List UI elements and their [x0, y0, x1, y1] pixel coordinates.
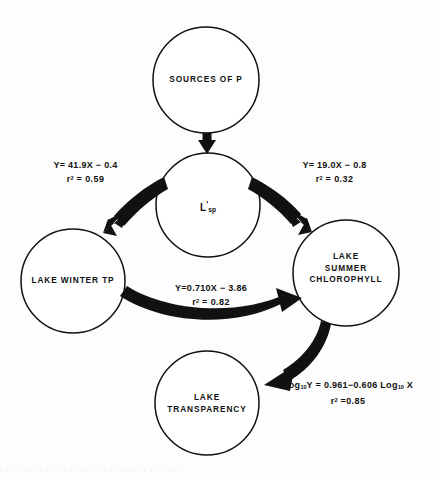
log-prefix-1: Log: [283, 380, 300, 390]
figure-canvas: .circ { fill: #ffffff; stroke: #111111; …: [0, 0, 439, 479]
edge-r2-value-chloro-transparency: =0.85: [338, 396, 366, 406]
edge-r2-value-lsp-winter: = 0.59: [74, 174, 105, 184]
caption-remnant: ................................: [0, 461, 439, 479]
edge-label-lsp-to-lake-summer-chlorophyll: Y= 19.0X − 0.8r2 = 0.32: [268, 159, 401, 186]
node-circle-lake-transparency[interactable]: [155, 351, 259, 455]
edge-r2-value-lsp-chloro: = 0.32: [323, 174, 354, 184]
log-middle: Y = 0.961−0.606 Log: [307, 380, 398, 390]
node-circle-lake-winter-tp[interactable]: [21, 229, 125, 333]
edge-label-lake-summer-chlorophyll-to-lake-transparency: Log10Y = 0.961−0.606 Log10 Xr2 =0.85: [260, 379, 436, 408]
node-circle-lsp[interactable]: [156, 153, 260, 257]
edge-equation-lsp-winter: Y= 41.9X − 0.4: [53, 160, 117, 170]
node-circle-lake-summer-chlorophyll[interactable]: [293, 220, 399, 326]
edge-r2-value-winter-chloro: = 0.82: [199, 297, 230, 307]
arrow-sources-to-lsp: [198, 133, 216, 154]
edge-label-lake-winter-tp-to-lake-summer-chlorophyll: Y=0.710X − 3.86r2 = 0.82: [141, 282, 281, 309]
edge-equation-chloro-transparency: Log10Y = 0.961−0.606 Log10 X: [283, 380, 413, 390]
edge-equation-lsp-chloro: Y= 19.0X − 0.8: [302, 160, 366, 170]
edge-label-lsp-to-lake-winter-tp: Y= 41.9X − 0.4r2 = 0.59: [18, 159, 153, 186]
log-suffix: X: [404, 380, 413, 390]
node-circle-sources-of-p[interactable]: [153, 27, 259, 133]
edge-equation-winter-chloro: Y=0.710X − 3.86: [175, 283, 247, 293]
